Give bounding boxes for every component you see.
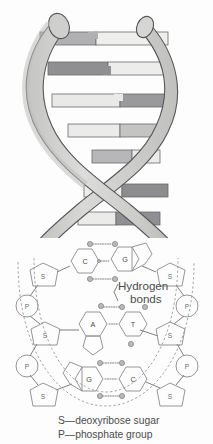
left-sugar-3-label: S xyxy=(41,393,46,400)
rung-3 xyxy=(52,94,174,107)
atom-dot-a2-top xyxy=(98,303,103,308)
left-phosphate-1-label: P xyxy=(25,303,30,310)
right-sugar-2-label: S xyxy=(168,332,173,339)
dna-figure: C G xyxy=(0,0,213,444)
dna-figure-canvas: C G xyxy=(0,0,213,444)
left-phosphate-2-label: P xyxy=(25,363,30,370)
right-sugar-3-label: S xyxy=(168,393,173,400)
rung-2 xyxy=(48,62,170,75)
hydrogen-bonds-label-line2: bonds xyxy=(130,292,162,305)
left-sugar-2-label: S xyxy=(43,332,48,339)
caption-line-1: S—deoxyribose sugar xyxy=(58,415,160,426)
atom-dot-t2-top xyxy=(142,304,147,309)
base-letter-t2: T xyxy=(131,320,136,329)
right-phosphate-2-label: P xyxy=(185,363,190,370)
hydrogen-bonds-label-line1: Hydrogen xyxy=(118,279,168,292)
base-letter-c1: C xyxy=(82,257,87,266)
base-letter-g3: G xyxy=(86,375,92,384)
base-letter-c3: C xyxy=(130,375,135,384)
base-letter-a2: A xyxy=(91,320,96,329)
base-letter-g1: G xyxy=(122,255,128,264)
atom-dot-t2-bottom xyxy=(128,341,133,346)
left-sugar-1-label: S xyxy=(41,273,46,280)
rung-4 xyxy=(68,124,164,137)
right-sugar-1-label: S xyxy=(168,273,173,280)
caption-line-2: P—phosphate group xyxy=(58,429,153,440)
right-phosphate-1-label: P xyxy=(185,303,190,310)
